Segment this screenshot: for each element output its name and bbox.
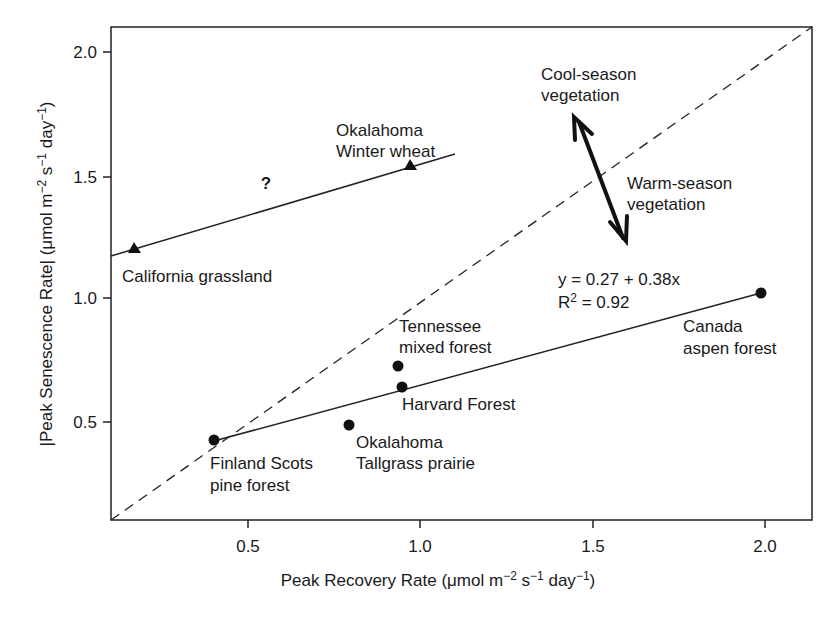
label-finland-2: pine forest xyxy=(210,476,290,495)
label-cool-season-2: vegetation xyxy=(541,86,619,105)
x-axis-ticks xyxy=(248,520,765,528)
circle-marker-tennessee xyxy=(393,361,404,372)
label-oklahoma-tallgrass-1: Okalahoma xyxy=(356,433,443,452)
circle-marker-harvard xyxy=(397,382,408,393)
label-canada-1: Canada xyxy=(683,317,743,336)
label-canada-2: aspen forest xyxy=(683,339,777,358)
label-tennessee-1: Tennessee xyxy=(399,317,481,336)
label-cool-season-1: Cool-season xyxy=(541,65,636,84)
y-tick-label: 2.0 xyxy=(73,43,97,62)
cool-season-fit-line xyxy=(111,154,455,256)
label-finland-1: Finland Scots xyxy=(210,454,313,473)
y-axis-ticks xyxy=(103,52,111,422)
fit-equation: y = 0.27 + 0.38x xyxy=(558,270,680,289)
label-warm-season-1: Warm-season xyxy=(627,174,732,193)
y-tick-label: 1.0 xyxy=(73,289,97,308)
y-tick-label: 0.5 xyxy=(73,413,97,432)
scatter-chart: 0.5 1.0 1.5 2.0 2.0 1.5 1.0 0.5 Peak Rec… xyxy=(0,0,824,622)
fit-r-squared: R2 = 0.92 xyxy=(558,291,629,312)
circle-marker-canada xyxy=(756,288,767,299)
x-tick-label: 2.0 xyxy=(753,537,777,556)
x-axis-title: Peak Recovery Rate (μmol m−2 s−1 day−1) xyxy=(281,569,595,590)
x-tick-label: 1.5 xyxy=(581,537,605,556)
label-oklahoma-winter-wheat-2: Winter wheat xyxy=(336,142,435,161)
circle-marker-finland xyxy=(209,435,220,446)
label-oklahoma-winter-wheat-1: Okalahoma xyxy=(336,121,423,140)
uncertain-marker: ? xyxy=(261,174,271,193)
label-tennessee-2: mixed forest xyxy=(399,338,492,357)
x-tick-label: 1.0 xyxy=(408,537,432,556)
y-axis-title: |Peak Senescence Rate| (μmol m−2 s−1 day… xyxy=(35,101,56,446)
y-tick-label: 1.5 xyxy=(73,168,97,187)
label-oklahoma-tallgrass-2: Tallgrass prairie xyxy=(356,454,475,473)
double-arrow-icon xyxy=(574,117,627,241)
label-warm-season-2: vegetation xyxy=(627,195,705,214)
warm-season-fit-line xyxy=(214,293,761,441)
circle-marker-oklahoma-tallgrass xyxy=(344,420,355,431)
label-california-grassland: California grassland xyxy=(122,267,272,286)
x-tick-label: 0.5 xyxy=(236,537,260,556)
label-harvard: Harvard Forest xyxy=(402,395,516,414)
